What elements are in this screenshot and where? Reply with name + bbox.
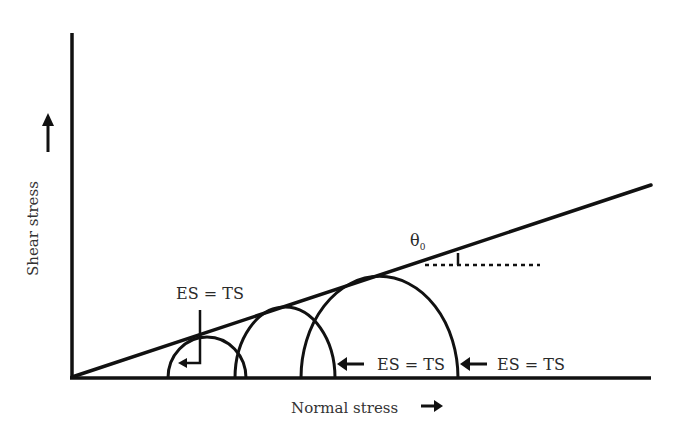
arrowhead-icon <box>337 357 347 371</box>
annotation-label-3: ES = TS <box>497 355 565 374</box>
arrowhead-icon <box>434 400 443 412</box>
arrowhead-icon <box>42 113 54 126</box>
arrowhead-icon <box>460 357 470 371</box>
x-axis-label: Normal stress <box>291 399 398 417</box>
angle-label: θ0 <box>410 231 426 252</box>
annotation-label-1: ES = TS <box>176 284 244 303</box>
y-axis-label: Shear stress <box>24 181 42 276</box>
annotation-label-2: ES = TS <box>377 355 445 374</box>
mohr-diagram: θ0 ES = TS ES = TS ES = TS Normal stress… <box>0 0 693 434</box>
arrowhead-icon <box>178 358 187 368</box>
failure-envelope-line <box>72 185 651 377</box>
